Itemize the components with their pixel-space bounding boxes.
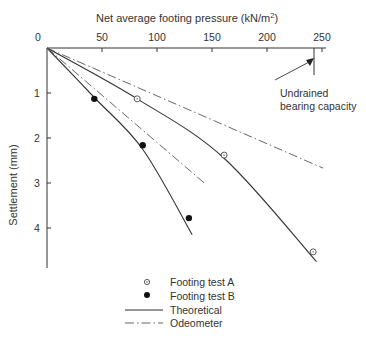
settlement-chart: Net average footing pressure (kN/m2) 050… (0, 0, 366, 339)
series-lines (47, 48, 323, 262)
footing-test-b-point (140, 142, 146, 148)
x-tick-label: 0 (35, 31, 41, 43)
annotation-line-2: bearing capacity (280, 100, 357, 112)
x-tick-label: 250 (313, 31, 331, 43)
annotation-line-1: Undrained (280, 87, 329, 99)
filled-circle-marker-icon (144, 292, 150, 298)
footing-test-b-point (91, 96, 97, 102)
y-tick-label: 2 (34, 132, 40, 144)
legend-label: Footing test A (170, 276, 234, 288)
y-tick-label: 4 (34, 222, 40, 234)
y-axis-ticks: 1234 (34, 87, 51, 234)
theoretical-curve-a (47, 48, 317, 262)
x-tick-label: 200 (258, 31, 276, 43)
odeometer-curve-b (47, 48, 204, 183)
legend-label: Odeometer (170, 317, 223, 329)
legend-item-theoretical: Theoretical (125, 304, 222, 316)
x-axis-ticks: 050100150200250 (35, 31, 331, 52)
y-tick-label: 1 (34, 87, 40, 99)
x-tick-label: 150 (203, 31, 221, 43)
undrained-bearing-capacity-annotation: Undrained bearing capacity (275, 48, 357, 112)
footing-test-b-point (186, 215, 192, 221)
annotation-arrow-shaft (275, 61, 311, 80)
legend-item-odeometer: Odeometer (125, 317, 223, 329)
theoretical-curve-b (47, 48, 192, 235)
legend: Footing test A Footing test B Theoretica… (125, 276, 235, 329)
legend-item-footing-test-b: Footing test B (144, 290, 235, 302)
x-axis-label: Net average footing pressure (kN/m2) (96, 11, 278, 24)
legend-label: Theoretical (170, 304, 222, 316)
x-tick-label: 100 (148, 31, 166, 43)
x-tick-label: 50 (96, 31, 108, 43)
series-points (91, 96, 316, 255)
legend-label: Footing test B (170, 290, 235, 302)
y-tick-label: 3 (34, 177, 40, 189)
annotation-arrow-head-icon (306, 58, 314, 66)
legend-item-footing-test-a: Footing test A (144, 276, 234, 288)
y-axis-label: Settlement (mm) (7, 144, 19, 225)
